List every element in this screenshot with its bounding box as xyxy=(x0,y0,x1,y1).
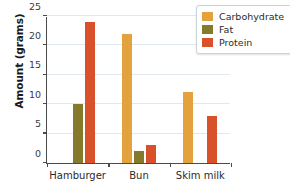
bar-group xyxy=(108,17,169,163)
y-tick-label: 0 xyxy=(35,147,41,158)
bar[interactable] xyxy=(134,151,144,163)
bar-slot xyxy=(85,17,95,163)
bar-slot xyxy=(73,17,83,163)
chart-legend: CarbohydrateFatProtein xyxy=(196,5,290,54)
bar-slot xyxy=(134,17,144,163)
bar-slot xyxy=(183,17,193,163)
legend-swatch-icon xyxy=(202,25,213,34)
bar[interactable] xyxy=(73,104,83,163)
legend-item[interactable]: Fat xyxy=(202,23,284,36)
legend-swatch-icon xyxy=(202,38,213,47)
x-axis-label: Bun xyxy=(129,170,149,181)
x-tick-mark xyxy=(108,163,109,167)
legend-label: Protein xyxy=(219,37,252,48)
bar[interactable] xyxy=(85,22,95,163)
legend-label: Carbohydrate xyxy=(219,11,284,22)
bar-chart-figure: Amount (grams) 0510152025 HamburgerBunSk… xyxy=(0,0,290,188)
x-axis-label: Skim milk xyxy=(176,170,225,181)
bar[interactable] xyxy=(146,145,156,163)
bar[interactable] xyxy=(207,116,217,163)
bar-slot xyxy=(146,17,156,163)
y-tick-label: 20 xyxy=(29,29,41,40)
y-tick-label: 15 xyxy=(29,59,41,70)
legend-label: Fat xyxy=(219,24,233,35)
bar-slot xyxy=(122,17,132,163)
legend-item[interactable]: Protein xyxy=(202,36,284,49)
x-tick-mark xyxy=(47,163,48,167)
y-tick-label: 25 xyxy=(29,0,41,11)
y-tick-mark xyxy=(43,15,47,16)
bar[interactable] xyxy=(183,92,193,163)
legend-swatch-icon xyxy=(202,12,213,21)
bar-slot xyxy=(61,17,71,163)
bar-group xyxy=(47,17,108,163)
bar[interactable] xyxy=(122,34,132,163)
y-tick-label: 10 xyxy=(29,88,41,99)
legend-item[interactable]: Carbohydrate xyxy=(202,10,284,23)
x-tick-mark xyxy=(231,163,232,167)
x-tick-mark xyxy=(170,163,171,167)
x-axis-label: Hamburger xyxy=(49,170,106,181)
y-axis-title: Amount (grams) xyxy=(13,0,25,126)
y-tick-label: 5 xyxy=(35,118,41,129)
